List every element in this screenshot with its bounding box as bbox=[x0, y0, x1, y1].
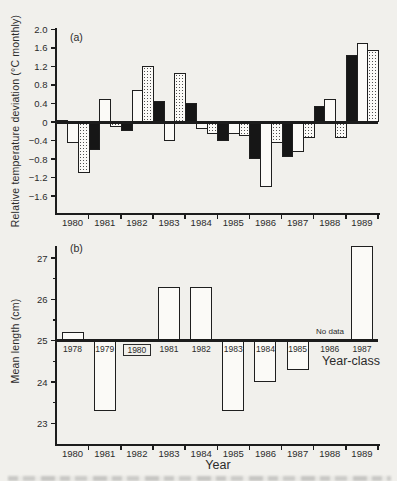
panel-b-x-tick-label: 1985 bbox=[216, 448, 250, 459]
year-class-label-1979: 1979 bbox=[89, 344, 121, 354]
bar-1983-stippled bbox=[174, 73, 186, 122]
bar-1981-solid-black bbox=[89, 122, 101, 150]
panel-a-y-tick bbox=[51, 29, 57, 31]
panel-a-y-tick-label: 0 bbox=[0, 117, 48, 128]
panel-a-y-tick-label: −0.4 bbox=[0, 135, 48, 146]
year-class-label-1981: 1981 bbox=[153, 344, 185, 354]
panel-a-y-tick-label: −1.6 bbox=[0, 191, 48, 202]
bar-1980-stippled bbox=[78, 122, 90, 173]
year-class-label-1987: 1987 bbox=[346, 344, 378, 354]
panel-a-y-tick bbox=[51, 66, 57, 68]
cropped-caption-strip bbox=[8, 476, 391, 481]
year-class-label-1983: 1983 bbox=[217, 344, 249, 354]
panel-b-y-minor-tick bbox=[53, 319, 57, 320]
bar-1986-stippled bbox=[271, 122, 283, 143]
panel-a-y-tick bbox=[51, 103, 57, 105]
bar-1989-stippled bbox=[367, 50, 379, 122]
panel-a-y-tick-label: 0.8 bbox=[0, 79, 48, 90]
panel-a-x-tick-label: 1989 bbox=[345, 217, 379, 228]
bar-1988-open-white bbox=[324, 99, 336, 122]
panel-b-y-tick-label: 25 bbox=[0, 335, 48, 346]
year-class-label-1978: 1978 bbox=[57, 344, 89, 354]
panel-a-x-tick-label: 1982 bbox=[120, 217, 154, 228]
panel-b-x-tick-label: 1983 bbox=[152, 448, 186, 459]
panel-a-y-tick-label: 2.0 bbox=[0, 24, 48, 35]
panel-b-y-tick-label: 23 bbox=[0, 418, 48, 429]
bar-1983-open-white bbox=[164, 122, 176, 141]
panel-b-y-tick-label: 26 bbox=[0, 294, 48, 305]
bar-1987-stippled bbox=[303, 122, 315, 138]
panel-a-y-tick-label: −0.8 bbox=[0, 154, 48, 165]
panel-a-y-tick bbox=[51, 140, 57, 142]
year-class-label-1986: 1986 bbox=[314, 344, 346, 354]
two-panel-bar-figure: Relative temperature deviation (°C month… bbox=[0, 0, 397, 481]
panel-a-x-tick-label: 1984 bbox=[184, 217, 218, 228]
panel-b-y-tick bbox=[51, 381, 57, 383]
panel-b-x-tick-label: 1989 bbox=[345, 448, 379, 459]
bar-1985-stippled bbox=[239, 122, 251, 136]
year-class-label-1984: 1984 bbox=[249, 344, 281, 354]
panel-b-y-tick bbox=[51, 423, 57, 425]
panel-b-baseline-25 bbox=[57, 339, 379, 342]
panel-b-x-tick-label: 1986 bbox=[248, 448, 282, 459]
panel-a-zero-line bbox=[57, 121, 379, 124]
panel-b-y-minor-tick bbox=[53, 402, 57, 403]
panel-a-x-tick-label: 1985 bbox=[216, 217, 250, 228]
panel-a-x-tick-label: 1980 bbox=[56, 217, 90, 228]
panel-a-x-tick-label: 1988 bbox=[313, 217, 347, 228]
panel-a-y-tick bbox=[51, 158, 57, 160]
bar-yearclass-1982 bbox=[190, 287, 212, 341]
year-class-label-1982: 1982 bbox=[185, 344, 217, 354]
panel-b-x-tick-label: 1987 bbox=[281, 448, 315, 459]
panel-a-y-tick-label: 0.4 bbox=[0, 98, 48, 109]
bar-yearclass-1981 bbox=[158, 287, 180, 341]
bar-1984-solid-black bbox=[185, 103, 197, 122]
panel-a-x-tick-label: 1987 bbox=[281, 217, 315, 228]
panel-a-y-tick bbox=[51, 47, 57, 49]
panel-a-y-tick-label: 1.6 bbox=[0, 42, 48, 53]
panel-b-y-tick bbox=[51, 299, 57, 301]
panel-a-y-tick bbox=[51, 121, 57, 123]
bar-1984-stippled bbox=[207, 122, 219, 134]
panel-b-y-tick-label: 24 bbox=[0, 377, 48, 388]
year-class-label-boxed-1980: 1980 bbox=[123, 344, 151, 356]
panel-b-y-minor-tick bbox=[53, 361, 57, 362]
panel-b-x-tick-label: 1981 bbox=[88, 448, 122, 459]
panel-b-y-tick bbox=[51, 340, 57, 342]
panel-b-x-tick-label: 1982 bbox=[120, 448, 154, 459]
no-data-note: No data bbox=[305, 327, 355, 336]
year-class-axis-title: Year-class bbox=[322, 354, 380, 368]
bar-1988-stippled bbox=[335, 122, 347, 138]
panel-a-x-tick-label: 1986 bbox=[248, 217, 282, 228]
panel-a-tag: (a) bbox=[70, 31, 83, 43]
panel-b-y-tick-label: 27 bbox=[0, 253, 48, 264]
panel-a-x-tick-label: 1983 bbox=[152, 217, 186, 228]
panel-a-y-tick bbox=[51, 177, 57, 179]
bar-1981-open-white bbox=[99, 99, 111, 122]
panel-a-x-tick-label: 1981 bbox=[88, 217, 122, 228]
panel-b-x-tick-label: 1984 bbox=[184, 448, 218, 459]
bar-1983-solid-black bbox=[153, 101, 165, 122]
bar-1982-stippled bbox=[142, 66, 154, 122]
panel-a-y-tick bbox=[51, 84, 57, 86]
year-class-label-1985: 1985 bbox=[282, 344, 314, 354]
x-axis-title-year: Year bbox=[192, 458, 244, 472]
panel-a-y-tick-label: −1.2 bbox=[0, 172, 48, 183]
panel-b-x-tick-label: 1980 bbox=[56, 448, 90, 459]
panel-b-y-minor-tick bbox=[53, 278, 57, 279]
panel-a-y-tick bbox=[51, 195, 57, 197]
panel-b-y-tick bbox=[51, 257, 57, 259]
panel-b-x-tick-label: 1988 bbox=[313, 448, 347, 459]
panel-a-y-tick-label: 1.2 bbox=[0, 61, 48, 72]
panel-b-tag: (b) bbox=[70, 242, 83, 254]
